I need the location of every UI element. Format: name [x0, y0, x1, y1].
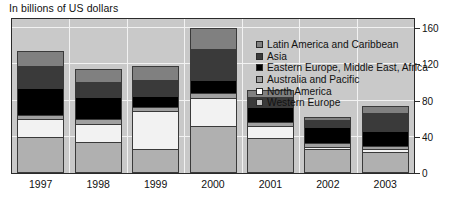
legend-swatch-icon: [256, 64, 263, 71]
bar-segment: [133, 97, 178, 108]
bar-segment: [248, 127, 293, 139]
bar-segment: [363, 132, 408, 147]
y-axis-tick-mark: [415, 28, 420, 29]
x-axis-tick-label-2002: 2002: [316, 178, 339, 190]
bar-segment: [305, 121, 350, 128]
bar-segment: [76, 125, 121, 143]
bar-segment: [18, 138, 63, 172]
legend-item-label: Eastern Europe, Middle East, Africa: [267, 62, 428, 73]
bar-segment: [191, 81, 236, 94]
bar-segment: [133, 112, 178, 149]
legend-item[interactable]: Australia and Pacific: [256, 74, 428, 86]
plot-area: Latin America and CaribbeanAsiaEastern E…: [11, 18, 415, 174]
y-axis-tick-label: 160: [422, 23, 439, 34]
legend-item-label: Australia and Pacific: [267, 74, 359, 85]
chart-caption: In billions of US dollars: [9, 2, 118, 14]
bar-segment: [191, 127, 236, 172]
bar-segment: [133, 81, 178, 97]
legend-item[interactable]: Asia: [256, 51, 428, 63]
legend-swatch-icon: [256, 99, 263, 106]
bar-segment: [248, 108, 293, 123]
bar-segment: [18, 89, 63, 116]
legend-item[interactable]: Latin America and Caribbean: [256, 39, 428, 51]
bar-segment: [18, 120, 63, 138]
bar-segment: [305, 128, 350, 144]
x-axis-tick-label-2000: 2000: [201, 178, 224, 190]
bar-segment: [76, 98, 121, 120]
y-axis-tick-mark: [415, 101, 420, 102]
legend-swatch-icon: [256, 41, 263, 48]
bar-segment: [363, 114, 408, 132]
y-axis-tick-label: 40: [422, 131, 433, 142]
legend-item-label: North America: [267, 86, 332, 97]
legend-item[interactable]: Western Europe: [256, 97, 428, 109]
x-axis-tick-label-2003: 2003: [374, 178, 397, 190]
x-axis-tick-label-1997: 1997: [29, 178, 52, 190]
y-axis-tick-mark: [415, 137, 420, 138]
y-axis-tick-label: 80: [422, 95, 433, 106]
bar-1999[interactable]: [132, 66, 179, 173]
y-axis-tick-mark: [415, 64, 420, 65]
bar-segment: [133, 67, 178, 81]
chart-root: In billions of US dollars Latin America …: [0, 0, 458, 202]
bar-2000[interactable]: [190, 28, 237, 173]
bar-1998[interactable]: [75, 69, 122, 173]
y-axis-tick-mark: [415, 173, 420, 174]
legend-swatch-icon: [256, 53, 263, 60]
bar-segment: [191, 50, 236, 81]
bar-2003[interactable]: [362, 106, 409, 173]
y-axis-tick-label: 0: [422, 168, 428, 179]
bar-segment: [191, 99, 236, 128]
chart-legend: Latin America and CaribbeanAsiaEastern E…: [256, 39, 428, 109]
legend-swatch-icon: [256, 76, 263, 83]
x-axis-tick-label-1999: 1999: [144, 178, 167, 190]
legend-item[interactable]: Eastern Europe, Middle East, Africa: [256, 62, 428, 74]
bar-segment: [363, 153, 408, 172]
bar-segment: [18, 67, 63, 89]
bar-segment: [191, 29, 236, 50]
legend-item-label: Latin America and Caribbean: [267, 39, 398, 50]
bar-segment: [18, 52, 63, 67]
bar-2002[interactable]: [304, 117, 351, 173]
x-axis-tick-label-1998: 1998: [86, 178, 109, 190]
legend-swatch-icon: [256, 88, 263, 95]
y-axis-tick-label: 120: [422, 59, 439, 70]
bar-segment: [76, 70, 121, 83]
bar-segment: [76, 83, 121, 98]
legend-item-label: Western Europe: [267, 97, 340, 108]
bar-segment: [76, 143, 121, 172]
bar-segment: [248, 139, 293, 172]
bar-segment: [133, 150, 178, 172]
bar-1997[interactable]: [17, 51, 64, 173]
legend-item[interactable]: North America: [256, 85, 428, 97]
legend-item-label: Asia: [267, 51, 287, 62]
bar-segment: [305, 150, 350, 172]
x-axis-tick-label-2001: 2001: [259, 178, 282, 190]
